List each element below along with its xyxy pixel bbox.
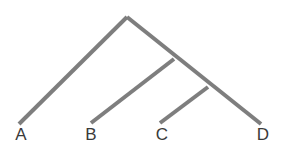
figure-background [0, 0, 286, 156]
taxon-label-a: A [15, 125, 27, 144]
taxon-label-c: C [156, 125, 168, 144]
taxon-label-b: B [85, 125, 96, 144]
cladogram-figure: A B C D [0, 0, 286, 156]
cladogram-canvas: A B C D [0, 0, 286, 156]
taxon-label-d: D [257, 125, 269, 144]
